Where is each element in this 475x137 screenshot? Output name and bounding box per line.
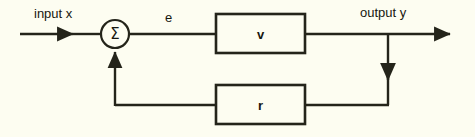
diagram-canvas: Σ v r input x e output y: [0, 0, 475, 137]
output-signal-label: output y: [360, 5, 407, 20]
input-signal-label: input x: [34, 6, 73, 21]
sigma-symbol: Σ: [110, 25, 119, 43]
forward-block-label: v: [257, 27, 265, 42]
feedback-block-label: r: [258, 98, 263, 113]
error-signal-label: e: [165, 10, 172, 25]
block-diagram: Σ v r input x e output y: [0, 0, 475, 137]
